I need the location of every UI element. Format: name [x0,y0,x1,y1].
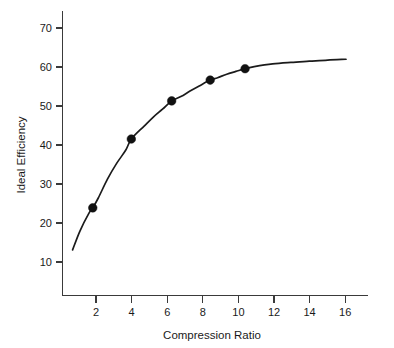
chart-plot-area: 70 60 50 40 30 20 10 2 4 6 8 10 12 [0,0,394,348]
y-axis-ticks [56,28,63,262]
y-tick-label: 60 [40,61,52,73]
y-tick-label: 30 [40,178,52,190]
x-tick-label: 8 [200,306,206,318]
y-axis-title: Ideal Efficiency [15,116,27,193]
y-tick-label: 20 [40,217,52,229]
x-tick-label: 6 [164,306,170,318]
x-axis-tick-labels: 2 4 6 8 10 12 14 16 [93,306,351,318]
y-tick-label: 70 [40,22,52,34]
chart-figure: 70 60 50 40 30 20 10 2 4 6 8 10 12 [0,0,394,348]
x-tick-label: 4 [129,306,135,318]
data-curve [73,59,346,250]
data-point-marker [241,64,250,73]
y-tick-label: 50 [40,100,52,112]
data-markers [88,64,249,212]
x-tick-label: 12 [268,306,280,318]
axis-spines [63,11,369,296]
x-tick-label: 14 [303,306,315,318]
x-tick-label: 16 [339,306,351,318]
data-point-marker [127,135,136,144]
x-tick-label: 2 [93,306,99,318]
y-tick-label: 10 [40,256,52,268]
x-tick-label: 10 [232,306,244,318]
data-point-marker [88,204,97,213]
x-axis-title: Compression Ratio [163,329,261,341]
x-axis-ticks [96,296,345,303]
y-tick-label: 40 [40,139,52,151]
y-axis-tick-labels: 70 60 50 40 30 20 10 [40,22,52,268]
data-point-marker [167,97,176,106]
data-point-marker [206,76,215,85]
